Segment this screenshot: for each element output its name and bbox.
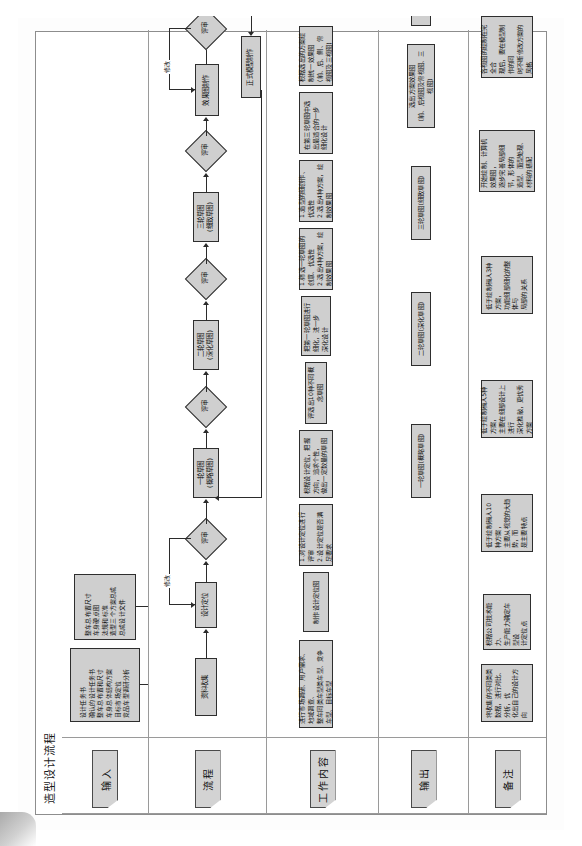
connector-p9-p10 bbox=[206, 120, 207, 136]
arrowhead-p6-p7 bbox=[203, 301, 209, 305]
arrowhead-p12 bbox=[248, 32, 254, 36]
swimlane-input: 输入 设计任务书 确认的设计任务书 整车总布置和尺寸 车身总体结构方案 目标市场… bbox=[62, 30, 148, 814]
node-process-2[interactable]: 设计定位 bbox=[195, 582, 217, 628]
swimlane-label-process: 流程 bbox=[195, 750, 221, 808]
arrowhead-p1-p2 bbox=[203, 629, 209, 633]
node-output-3[interactable]: 三轮草图(细致草图) bbox=[411, 166, 431, 240]
arrowhead-p3-p4 bbox=[203, 499, 209, 503]
node-remark-2[interactable]: 根据公司技术能力、 生产能力确定车型设 计定位点 bbox=[483, 594, 531, 650]
node-work-8[interactable]: 1.造型的细创作、优选性 2.选出4种方案，绘制效果图 bbox=[299, 160, 333, 222]
flowchart-sheet: 造型设计流程 输入 设计任务书 确认的设计任务书 整车总布置和尺寸 车身总体结构… bbox=[35, 31, 547, 815]
arrowhead-revise1 bbox=[191, 602, 195, 608]
node-work-2[interactable]: 制作设计定位图 bbox=[303, 572, 329, 632]
node-work-3[interactable]: 1.对设计定位进行评审 2.设计定位是否满足要求 bbox=[299, 504, 333, 566]
node-process-5-label: 评审 bbox=[202, 392, 208, 420]
node-process-8[interactable]: 三轮草图 (细致草图) bbox=[193, 192, 219, 242]
page-title: 造型设计流程 bbox=[36, 30, 62, 814]
connector-p4-p5 bbox=[206, 432, 207, 448]
arrowhead-p4-p5 bbox=[203, 429, 209, 433]
arrowhead-p9-p10 bbox=[203, 117, 209, 121]
connector-p8-p9 bbox=[206, 176, 207, 192]
arrowhead-p8-p9 bbox=[203, 173, 209, 177]
arrowhead-revise2 bbox=[191, 87, 195, 93]
rotated-chart-wrapper: 造型设计流程 输入 设计任务书 确认的设计任务书 整车总布置和尺寸 车身总体结构… bbox=[35, 31, 547, 815]
swimlane-work: 工作内容 进行市场调研、用户需求、地域调查、 整车同类车型类车型、竞争车型、目标… bbox=[266, 30, 378, 814]
swimlane-body-output: 一轮草图(概略草图) 二轮草图(深化草图) 三轮草图(细致草图) 选出方案效果图… bbox=[379, 30, 468, 738]
connector-input2-down bbox=[136, 606, 148, 607]
swimlane-output: 输出 一轮草图(概略草图) 二轮草图(深化草图) 三轮草图(细致草图) 选出方案… bbox=[378, 30, 468, 814]
connector-p2-p3 bbox=[206, 564, 207, 582]
node-process-3[interactable]: 评审 bbox=[185, 518, 227, 560]
swimlane-label-input: 输入 bbox=[92, 750, 118, 808]
gutter-divider-left bbox=[62, 813, 546, 814]
page-canvas: 造型设计流程 输入 设计任务书 确认的设计任务书 整车总布置和尺寸 车身总体结构… bbox=[0, 0, 582, 846]
connector-p5-p6 bbox=[206, 374, 207, 392]
node-process-4[interactable]: 一轮草图 (概略草图) bbox=[193, 448, 219, 498]
node-remark-6[interactable]: 开始绘制、计算机效果图， 逐步完善局部细节，形体的 造型、面型处理、材料的搭配 bbox=[479, 130, 535, 192]
swimlane-body-input: 设计任务书 确认的设计任务书 整车总布置和尺寸 车身总体结构方案 目标市场定位 … bbox=[62, 30, 148, 738]
node-process-12[interactable]: 正式模型制作 bbox=[241, 36, 261, 98]
arrowhead-longreturn bbox=[215, 495, 219, 501]
arrowhead-p7-p8 bbox=[203, 243, 209, 247]
node-work-5[interactable]: 评选出10种不同概念草图 bbox=[305, 362, 327, 424]
swimlane-label-remark: 备注 bbox=[495, 750, 521, 808]
node-process-7[interactable]: 评审 bbox=[185, 258, 227, 300]
connector-revise1-up bbox=[169, 538, 191, 539]
node-process-11-label: 评审 bbox=[202, 14, 208, 42]
connector-p1-p2 bbox=[206, 632, 207, 658]
connector-p6-p7 bbox=[206, 304, 207, 320]
node-output-2[interactable]: 二轮草图(深化草图) bbox=[411, 292, 431, 366]
node-remark-1[interactable]: 将收集的不同类类数据，进行对比、分析，优 化出自己的设计方向 bbox=[481, 664, 533, 722]
arrowhead-p5-p6 bbox=[203, 371, 209, 375]
connector-input1-down bbox=[140, 684, 148, 685]
node-remark-3[interactable]: 低于绘制稿人10种方案， 主要从视觉的大趋势，而 是主要特点 bbox=[481, 494, 533, 552]
node-output-1[interactable]: 一轮草图(概略草图) bbox=[411, 424, 431, 498]
node-process-5[interactable]: 评审 bbox=[185, 386, 227, 428]
connector-p3-p4 bbox=[206, 502, 207, 524]
connector-longreturn-h bbox=[261, 90, 262, 498]
edge-label-revise-1: 修改 bbox=[162, 574, 171, 588]
node-output-4[interactable]: 选出方案效果图 (前、后视图及俯视图、三视图) bbox=[407, 44, 435, 128]
node-process-9-label: 评审 bbox=[202, 136, 208, 164]
node-work-4[interactable]: 根据设计定位，把握方向，追求个性， 做出一定数量的草图 bbox=[299, 430, 333, 498]
node-process-3-label: 评审 bbox=[202, 524, 208, 552]
node-work-10[interactable]: 根据选出的方案绘制统一效果图 (前、后、侧、俯视图及三视图) bbox=[299, 26, 333, 86]
connector-revise1-h bbox=[169, 539, 170, 605]
scan-edge-top bbox=[0, 0, 582, 16]
swimlane-label-output: 输出 bbox=[411, 750, 437, 808]
swimlane-grid: 输入 设计任务书 确认的设计任务书 整车总布置和尺寸 车身总体结构方案 目标市场… bbox=[62, 30, 546, 814]
node-work-1[interactable]: 进行市场调研、用户需求、地域调查、 整车同类车型类车型、竞争车型、目标车型 bbox=[299, 640, 333, 728]
connector-p7-p8 bbox=[206, 246, 207, 264]
node-process-7-label: 评审 bbox=[202, 264, 208, 292]
node-work-9[interactable]: 在第三轮草图中选出最适合的一步 细化设计 bbox=[299, 92, 333, 154]
node-work-7[interactable]: 1.筛选一轮草图的创意、优选性 2.选出4种方案，绘制效果图 bbox=[299, 228, 333, 290]
edge-label-revise-2: 修改 bbox=[162, 60, 171, 74]
swimlane-remark: 备注 将收集的不同类类数据，进行对比、分析，优 化出自己的设计方向 根据公司技术… bbox=[468, 30, 546, 814]
node-remark-7[interactable]: 各视图的绘制在完全合 理后，要在模型制作的同 时不断修改方案的风格 bbox=[481, 16, 533, 78]
connector-revise2-up bbox=[169, 28, 191, 29]
node-process-1[interactable]: 资料收集 bbox=[195, 658, 217, 716]
node-input-2[interactable]: 整车总布置尺寸 车身硬点图 法规和标准 造型三个方案总成 总成设计文件 bbox=[74, 574, 136, 640]
arrowhead-p2-p3 bbox=[203, 561, 209, 565]
gutter-divider-right bbox=[62, 737, 546, 738]
swimlane-body-remark: 将收集的不同类类数据，进行对比、分析，优 化出自己的设计方向 根据公司技术能力、… bbox=[469, 30, 546, 738]
node-remark-4[interactable]: 低于绘制稿人5种方案， 主要在细部设计上进行 深化推敲，更优秀方案 bbox=[481, 380, 533, 438]
node-process-10[interactable]: 效果图制作 bbox=[195, 64, 219, 116]
connector-longreturn-v bbox=[219, 497, 261, 498]
scan-corner-shadow bbox=[0, 812, 36, 846]
node-process-6[interactable]: 二轮草图 (深化草图) bbox=[193, 320, 219, 370]
swimlane-body-work: 进行市场调研、用户需求、地域调查、 整车同类车型类车型、竞争车型、目标车型 制作… bbox=[267, 30, 378, 738]
swimlane-body-process: 资料收集 设计定位 评审 bbox=[149, 30, 266, 738]
swimlane-label-work: 工作内容 bbox=[310, 750, 336, 808]
swimlane-process: 流程 资料收集 设计定位 评审 bbox=[148, 30, 266, 814]
node-work-6[interactable]: 把第一轮草图进行细化，进一步 深化设计 bbox=[301, 296, 331, 356]
node-input-1[interactable]: 设计任务书 确认的设计任务书 整车总布置和尺寸 车身总体结构方案 目标市场定位 … bbox=[70, 648, 140, 722]
node-remark-5[interactable]: 低于绘制稿人3种方案， 功能细部细化的整体与 局部的关系 bbox=[481, 256, 533, 314]
node-process-9[interactable]: 评审 bbox=[185, 130, 227, 172]
